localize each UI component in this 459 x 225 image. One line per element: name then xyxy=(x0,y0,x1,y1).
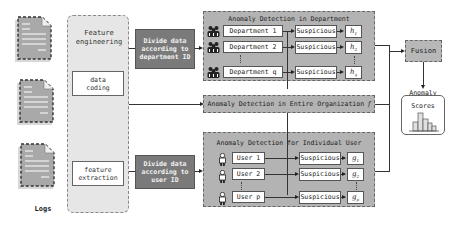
anomaly-scores-box: Scores xyxy=(401,95,445,135)
user-1-suspicious: Suspicious xyxy=(299,152,341,165)
arrow xyxy=(342,195,346,199)
g2-symbol: g2 xyxy=(347,168,364,181)
central-vertical-line-top xyxy=(287,31,288,89)
department-ellipsis xyxy=(240,55,241,63)
user-person-icon xyxy=(218,190,227,209)
user2-connector xyxy=(265,174,297,175)
arrow xyxy=(340,70,344,74)
userp-connector xyxy=(265,197,297,198)
document-icon xyxy=(12,15,56,65)
central-vertical-line-bottom xyxy=(287,113,288,195)
user-2-box: User 2 xyxy=(232,168,265,180)
department-people-icon xyxy=(207,39,220,58)
histogram-icon xyxy=(406,110,442,134)
org-to-fusion xyxy=(375,104,390,105)
data-coding-box: data coding xyxy=(72,71,124,96)
arrow xyxy=(342,156,346,160)
department-group-title: Anomaly Detection in Department xyxy=(204,15,374,23)
gp-symbol: gp xyxy=(347,191,364,204)
department-people-icon xyxy=(207,64,220,83)
hq-symbol: hq xyxy=(345,66,362,79)
organization-detection-bar: Anomaly Detection in Entire Organization… xyxy=(203,95,375,113)
user-ellipsis xyxy=(241,182,242,190)
user-group-title: Anomaly Detection for Individual User xyxy=(204,139,374,147)
g1-symbol: g1 xyxy=(347,152,364,165)
log-document-1 xyxy=(12,15,49,61)
arrow xyxy=(340,29,344,33)
user-group-to-fusion xyxy=(375,171,390,172)
arrow xyxy=(340,45,344,49)
log-document-2 xyxy=(14,78,51,124)
user-2-suspicious: Suspicious xyxy=(299,168,341,181)
user-p-suspicious: Suspicious xyxy=(299,191,341,204)
fusion-to-scores xyxy=(423,62,424,87)
user-p-box: User p xyxy=(232,191,265,203)
log-document-3 xyxy=(15,142,52,188)
feature-engineering-title: Feature engineering xyxy=(68,29,130,47)
department-2-suspicious: Suspicious xyxy=(295,41,337,54)
document-icon xyxy=(14,78,58,128)
divide-by-department-box: Divide data according to department ID xyxy=(135,29,195,69)
fusion-merge-vertical xyxy=(389,45,390,172)
arrow xyxy=(342,172,346,176)
h2-symbol: h2 xyxy=(345,41,362,54)
h1-symbol: h1 xyxy=(345,25,362,38)
organization-symbol: f xyxy=(368,100,370,108)
feature-engineering-panel: Feature engineering data coding feature … xyxy=(67,15,129,213)
fusion-box: Fusion xyxy=(405,40,442,62)
department-q-suspicious: Suspicious xyxy=(295,66,337,79)
department-q-box: Department q xyxy=(223,66,283,78)
user-person-icon xyxy=(218,168,227,187)
user1-connector xyxy=(265,158,297,159)
dept-group-to-fusion xyxy=(375,45,390,46)
organization-title: Anomaly Detection in Entire Organization xyxy=(208,100,365,108)
connector-panel-to-organization xyxy=(129,104,201,105)
logs-label: Logs xyxy=(28,205,58,213)
user-1-box: User 1 xyxy=(232,152,265,164)
department-1-box: Department 1 xyxy=(223,25,283,37)
feature-extraction-box: feature extraction xyxy=(72,161,124,186)
symbol-ellipsis xyxy=(356,182,357,190)
department-1-suspicious: Suspicious xyxy=(295,25,337,38)
department-2-box: Department 2 xyxy=(223,41,283,53)
symbol-ellipsis xyxy=(354,56,355,64)
divide-by-user-box: Divide data according to user ID xyxy=(135,155,195,189)
document-icon xyxy=(15,142,59,192)
